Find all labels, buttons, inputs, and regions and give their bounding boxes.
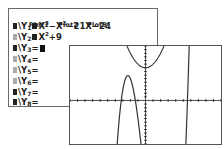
unselected-marker-icon[interactable] — [13, 67, 17, 73]
y1-expression[interactable]: X3−X2−21X−24 — [38, 21, 110, 31]
graph-screen — [69, 45, 222, 145]
unselected-marker-icon[interactable] — [13, 78, 17, 84]
function-row-y5[interactable]: \Y5= — [13, 65, 39, 75]
text-cursor-icon[interactable] — [40, 45, 45, 52]
unselected-marker-icon[interactable] — [13, 56, 17, 62]
curve-y1-cubic — [117, 46, 189, 144]
selected-marker-icon[interactable] — [13, 45, 17, 51]
function-row-y4[interactable]: \Y4= — [13, 54, 39, 64]
graph-canvas — [70, 46, 221, 144]
function-row-y3[interactable]: \Y3= — [13, 43, 45, 53]
unselected-marker-icon[interactable] — [13, 34, 17, 40]
function-row-y2[interactable]: \Y2X2+9 — [13, 32, 62, 42]
highlighted-equals-icon[interactable] — [32, 34, 37, 40]
function-row-y7[interactable]: \Y7= — [13, 87, 39, 97]
function-row-y6[interactable]: \Y6= — [13, 76, 39, 86]
axes — [70, 46, 221, 144]
selected-marker-icon[interactable] — [13, 89, 17, 95]
highlighted-equals-icon[interactable] — [32, 23, 37, 29]
selected-marker-icon[interactable] — [13, 99, 17, 105]
y2-expression[interactable]: X2+9 — [38, 32, 61, 42]
function-row-y8[interactable]: \Y8= — [13, 97, 39, 107]
function-row-y1[interactable]: \Y1X3−X2−21X−24 — [13, 21, 111, 31]
selected-marker-icon[interactable] — [13, 23, 17, 29]
